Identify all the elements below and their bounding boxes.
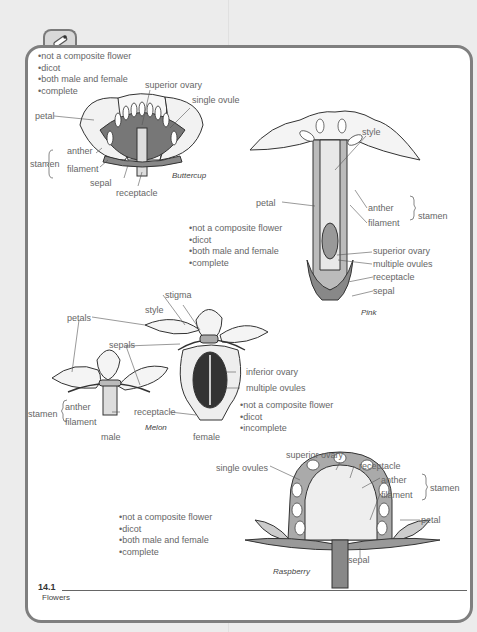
buttercup-label-superior-ovary: superior ovary [145,80,202,90]
melon-traits: not a composite flower dicot incomplete [240,400,333,435]
pink-label-superior-ovary: superior ovary [373,246,430,256]
raspberry-label-superior-ovary: superior ovary [286,450,343,460]
pink-label-anther: anther [368,203,394,213]
pink-label-style: style [362,127,381,137]
raspberry-label-petal: petal [421,515,441,525]
raspberry-traits: not a composite flower dicot both male a… [119,512,212,558]
buttercup-traits: not a composite flower dicot both male a… [38,51,131,97]
melon-label-anther: anther [65,402,91,412]
buttercup-label-stamen: stamen [30,159,60,169]
raspberry-caption: Raspberry [273,567,310,576]
melon-label-multiple-ovules: multiple ovules [246,383,306,393]
melon-label-inferior-ovary: inferior ovary [246,367,298,377]
melon-label-stigma: stigma [165,290,192,300]
melon-label-filament: filament [65,417,97,427]
pink-label-filament: filament [368,218,400,228]
pink-traits: not a composite flower dicot both male a… [189,223,282,269]
raspberry-label-sepal: sepal [348,555,370,565]
pink-label-receptacle: receptacle [373,272,415,282]
buttercup-label-sepal: sepal [90,178,112,188]
buttercup-label-petal: petal [35,111,55,121]
pink-label-sepal: sepal [373,286,395,296]
buttercup-caption: Buttercup [172,171,206,180]
footer-rule [62,590,467,591]
melon-label-stamen: stamen [28,409,58,419]
melon-female-label: female [193,432,220,442]
buttercup-label-receptacle: receptacle [116,188,158,198]
melon-caption: Melon [145,423,167,432]
pink-label-petal: petal [256,198,276,208]
melon-label-petals: petals [67,313,91,323]
buttercup-label-filament: filament [67,164,99,174]
section-title: Flowers [42,593,70,602]
melon-label-style: style [145,305,164,315]
pink-label-stamen: stamen [418,211,448,221]
raspberry-label-anther: anther [381,475,407,485]
melon-male-label: male [101,432,121,442]
buttercup-label-single-ovule: single ovule [192,95,240,105]
melon-label-sepals: sepals [109,340,135,350]
raspberry-label-single-ovules: single ovules [216,463,268,473]
section-number: 14.1 [38,582,56,592]
pink-caption: Pink [361,308,377,317]
buttercup-label-anther: anther [67,146,93,156]
raspberry-label-filament: filament [381,490,413,500]
raspberry-label-stamen: stamen [430,483,460,493]
pink-label-multiple-ovules: multiple ovules [373,259,433,269]
melon-label-receptacle: receptacle [134,407,176,417]
raspberry-label-receptacle: receptacle [359,461,401,471]
